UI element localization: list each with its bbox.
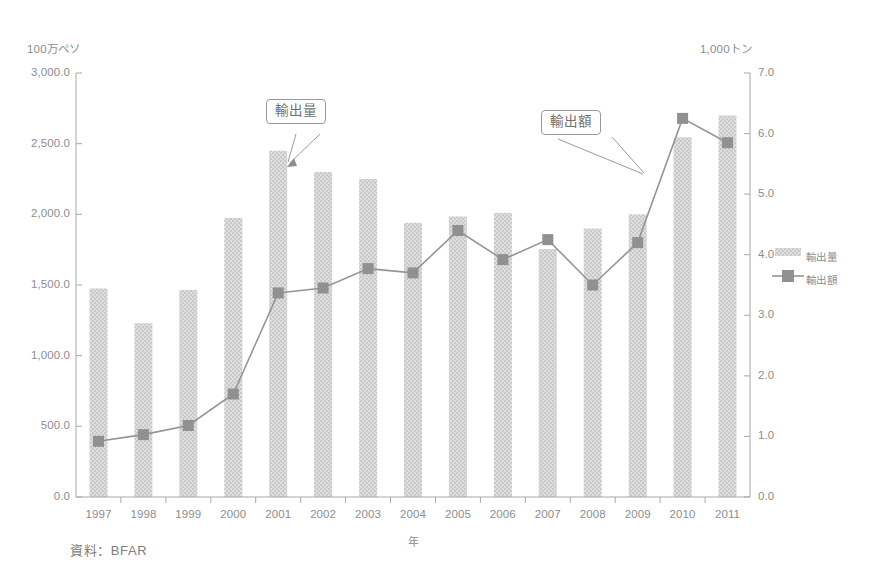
legend-label-export-value: 輸出額 [806, 272, 837, 287]
line-marker-2006 [497, 254, 508, 265]
line-marker-1999 [183, 420, 194, 431]
bar-1998 [134, 323, 152, 497]
bar-2000 [224, 218, 242, 497]
export-chart-figure [0, 0, 871, 569]
chart-background [0, 0, 871, 569]
annotation-callout-export-volume: 輸出量 [266, 99, 326, 124]
bar-2011 [719, 115, 737, 497]
bar-2001 [269, 151, 287, 497]
line-marker-2004 [408, 267, 419, 278]
line-marker-1998 [138, 429, 149, 440]
legend-marker-export-value [782, 270, 794, 282]
line-marker-2003 [363, 263, 374, 274]
bar-2008 [584, 229, 602, 498]
line-marker-2001 [273, 287, 284, 298]
right-tick-label-7: 7.0 [758, 66, 820, 78]
annotation-callout-export-value: 輸出額 [541, 110, 601, 135]
line-marker-2009 [632, 237, 643, 248]
bar-1997 [90, 289, 108, 498]
line-marker-2005 [452, 225, 463, 236]
bar-2003 [359, 179, 377, 497]
line-marker-2008 [587, 280, 598, 291]
x-tick-label-2011: 2011 [700, 508, 756, 520]
left-tick-label-2: 1,000.0 [8, 349, 70, 361]
x-axis-title: 年 [398, 533, 428, 549]
left-tick-label-5: 2,500.0 [8, 137, 70, 149]
right-axis-unit-label: 1,000トン [700, 40, 752, 56]
bar-2005 [449, 217, 467, 498]
left-tick-label-0: 0.0 [8, 490, 70, 502]
right-tick-label-1: 1.0 [758, 429, 820, 441]
line-marker-2010 [677, 113, 688, 124]
right-tick-label-6: 6.0 [758, 127, 820, 139]
right-tick-label-5: 5.0 [758, 187, 820, 199]
left-axis-unit-label: 100万ペソ [27, 40, 80, 56]
right-tick-label-2: 2.0 [758, 369, 820, 381]
left-tick-label-3: 1,500.0 [8, 278, 70, 290]
line-marker-2002 [318, 283, 329, 294]
legend-label-export-volume: 輸出量 [806, 249, 837, 264]
bar-1999 [179, 290, 197, 497]
line-marker-2007 [542, 234, 553, 245]
left-tick-label-1: 500.0 [8, 419, 70, 431]
bar-2010 [674, 137, 692, 497]
left-tick-label-6: 3,000.0 [8, 66, 70, 78]
source-note: 資料：BFAR [70, 540, 147, 559]
right-tick-label-0: 0.0 [758, 490, 820, 502]
bar-2002 [314, 172, 332, 497]
line-marker-2011 [722, 137, 733, 148]
line-marker-1997 [93, 436, 104, 447]
bar-2009 [629, 214, 647, 497]
line-marker-2000 [228, 389, 239, 400]
bar-2007 [539, 249, 557, 497]
right-tick-label-3: 3.0 [758, 308, 820, 320]
left-tick-label-4: 2,000.0 [8, 207, 70, 219]
bar-2004 [404, 223, 422, 497]
